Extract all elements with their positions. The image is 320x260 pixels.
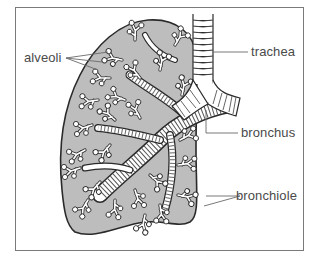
- label-trachea: trachea: [251, 45, 295, 58]
- label-alveoli: alveoli: [24, 51, 62, 64]
- label-bronchus: bronchus: [241, 126, 295, 139]
- label-bronchiole: bronchiole: [236, 189, 297, 202]
